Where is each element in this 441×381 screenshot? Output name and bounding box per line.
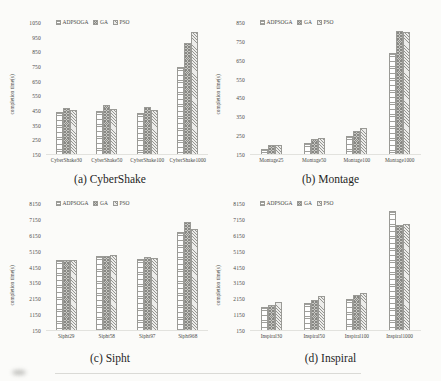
bar-group-inspiral100	[336, 204, 379, 330]
x-tick-label: Inspiral30	[250, 333, 293, 339]
bar-group-cybershake30	[46, 23, 87, 154]
bars	[250, 23, 421, 154]
y-tick-label: 850	[236, 20, 245, 26]
y-tick-label: 2150	[233, 296, 245, 302]
y-tick-label: 150	[32, 152, 41, 158]
bar-ga	[353, 295, 360, 330]
bars	[46, 204, 208, 330]
bar-adpsoga	[304, 303, 311, 330]
bar-adpsoga	[346, 299, 353, 331]
y-axis-ticks: 15011502150315041505150615071508150	[17, 204, 43, 331]
bars	[46, 23, 208, 154]
bar-adpsoga	[261, 149, 268, 154]
bar-pso	[403, 32, 410, 154]
bar-ga	[396, 31, 403, 154]
bar-pso	[110, 255, 117, 330]
y-tick-label: 6150	[233, 233, 245, 239]
x-tick-label: CyberShake100	[127, 157, 168, 163]
x-tick-label: Inspiral100	[336, 333, 379, 339]
x-tick-label: CyberShake30	[46, 157, 87, 163]
y-tick-label: 4150	[233, 265, 245, 271]
bar-group-sipht58	[87, 204, 128, 330]
chart-c-sipht: completion time(s) 150115021503150415051…	[0, 190, 220, 381]
bar-group-inspiral1000	[378, 204, 421, 330]
y-tick-label: 550	[32, 93, 41, 99]
y-tick-label: 1150	[233, 312, 245, 318]
bar-group-inspiral50	[293, 204, 336, 330]
bar-group-cybershake100	[127, 23, 168, 154]
bar-group-sipht968	[168, 204, 209, 330]
bar-pso	[70, 260, 77, 330]
chart-caption: (c) Sipht	[0, 352, 220, 364]
y-axis-ticks: 1502503504505506507508509501050	[17, 23, 43, 155]
chart-d-inspiral: completion time(s) 150115021503150415051…	[220, 190, 441, 381]
bar-group-inspiral30	[250, 204, 293, 330]
x-axis-labels: Montage25Montage50Montage100Montage1000	[250, 157, 421, 167]
x-tick-label: Sipht97	[127, 333, 168, 339]
y-tick-label: 3150	[29, 280, 41, 286]
y-tick-label: 350	[32, 123, 41, 129]
bar-adpsoga	[261, 307, 268, 330]
x-tick-label: Montage50	[293, 157, 336, 163]
y-tick-label: 650	[236, 58, 245, 64]
bar-ga	[63, 260, 70, 330]
y-axis-label: completion time(s)	[9, 74, 15, 114]
bar-ga	[63, 108, 70, 154]
x-tick-label: Sipht58	[87, 333, 128, 339]
bar-pso	[403, 224, 410, 330]
y-tick-label: 450	[236, 95, 245, 101]
bar-pso	[191, 229, 198, 330]
bar-group-sipht97	[127, 204, 168, 330]
x-tick-label: Inspiral50	[293, 333, 336, 339]
bar-ga	[396, 225, 403, 330]
y-tick-label: 950	[32, 35, 41, 41]
bar-group-montage25	[250, 23, 293, 154]
y-axis-ticks: 15011502150315041505150615071508150	[221, 204, 247, 331]
plot-area: ADPSOGAGAPSO	[46, 23, 208, 155]
y-tick-label: 150	[32, 328, 41, 334]
y-tick-label: 6150	[29, 233, 41, 239]
y-axis-label: completion time(s)	[9, 265, 15, 305]
y-tick-label: 1050	[29, 20, 41, 26]
y-tick-label: 2150	[29, 296, 41, 302]
chart-a-cybershake: completion time(s) 150250350450550650750…	[0, 0, 220, 190]
bar-ga	[311, 300, 318, 330]
bar-group-cybershake50	[87, 23, 128, 154]
bar-group-sipht29	[46, 204, 87, 330]
bar-pso	[360, 128, 367, 154]
bar-pso	[318, 138, 325, 154]
y-tick-label: 450	[32, 108, 41, 114]
bar-group-cybershake1000	[168, 23, 209, 154]
y-tick-label: 8150	[29, 201, 41, 207]
y-tick-label: 750	[32, 64, 41, 70]
bar-pso	[191, 32, 198, 154]
y-tick-label: 3150	[233, 280, 245, 286]
bar-ga	[268, 145, 275, 154]
bar-ga	[144, 107, 151, 154]
y-tick-label: 750	[236, 39, 245, 45]
bar-pso	[275, 145, 282, 154]
bar-adpsoga	[137, 113, 144, 154]
bar-ga	[103, 105, 110, 154]
bar-group-montage100	[336, 23, 379, 154]
y-tick-label: 350	[236, 114, 245, 120]
y-tick-label: 850	[32, 49, 41, 55]
bar-adpsoga	[389, 211, 396, 330]
bar-adpsoga	[96, 111, 103, 154]
bar-pso	[318, 296, 325, 330]
figure-grid: completion time(s) 150250350450550650750…	[0, 0, 441, 381]
bar-ga	[311, 139, 318, 154]
y-tick-label: 650	[32, 79, 41, 85]
bar-pso	[70, 110, 77, 154]
chart-caption: (b) Montage	[220, 173, 441, 185]
bar-adpsoga	[56, 260, 63, 330]
y-tick-label: 4150	[29, 265, 41, 271]
x-axis-labels: CyberShake30CyberShake50CyberShake100Cyb…	[46, 157, 208, 167]
x-tick-label: Sipht29	[46, 333, 87, 339]
y-tick-label: 550	[236, 77, 245, 83]
y-tick-label: 7150	[233, 217, 245, 223]
plot-area: ADPSOGAGAPSO	[250, 23, 421, 155]
bar-ga	[184, 43, 191, 154]
x-axis-labels: Sipht29Sipht58Sipht97Sipht968	[46, 333, 208, 343]
x-tick-label: Sipht968	[168, 333, 209, 339]
